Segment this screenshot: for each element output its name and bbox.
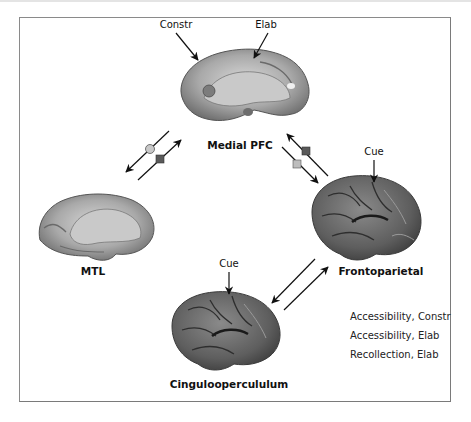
annotation-frontoparietal-cue: Cue	[364, 146, 383, 157]
arrow-cingulo-to-frontoparietal	[284, 267, 328, 310]
region-label-cinguloopercululum: Cinguloopercululum	[170, 378, 288, 390]
legend-item: Recollection, Elab	[350, 345, 451, 364]
annotation-cingulo-cue: Cue	[219, 258, 238, 269]
marker-square-light	[293, 160, 301, 168]
annotation-constr: Constr	[160, 19, 193, 30]
annotation-elab: Elab	[255, 19, 277, 30]
legend-item: Accessibility, Constr	[350, 307, 451, 326]
legend-item: Accessibility, Elab	[350, 326, 451, 345]
arrow-frontoparietal-to-cingulo	[272, 259, 315, 303]
region-label-frontoparietal: Frontoparietal	[339, 265, 424, 277]
brain-medial-pfc	[181, 49, 309, 120]
brain-mtl	[39, 194, 154, 260]
brain-cinguloopercululum	[172, 292, 280, 370]
marker-square-dark	[302, 147, 310, 155]
region-label-medial-pfc: Medial PFC	[207, 139, 273, 151]
legend: Accessibility, Constr Accessibility, Ela…	[350, 307, 451, 364]
constr-pointer-arrow	[176, 33, 198, 60]
region-label-mtl: MTL	[81, 265, 105, 277]
marker-circle-light	[146, 145, 155, 154]
brain-frontoparietal	[312, 176, 421, 260]
marker-square-dark	[156, 155, 164, 163]
